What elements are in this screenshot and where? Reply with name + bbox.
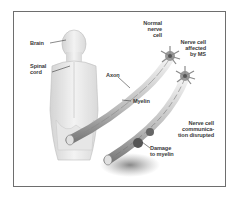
damage-leader xyxy=(142,142,150,148)
ms-illustration xyxy=(0,0,238,199)
label-axon: Axon xyxy=(106,72,120,78)
axon-leader xyxy=(118,77,130,88)
label-brain: Brain xyxy=(30,40,44,46)
label-affected-cell: Nerve cell affected by MS xyxy=(172,39,206,57)
label-damage-to-myelin: Damage to myelin xyxy=(150,145,174,157)
label-spinal-line2: cord xyxy=(30,69,46,75)
label-spinal-cord: Spinal cord xyxy=(30,63,46,75)
label-normal-nerve-cell: Normal nerve cell xyxy=(134,20,162,38)
label-communication-disrupted: Nerve cell communica- tion disrupted xyxy=(170,120,214,138)
label-affected-line3: by MS xyxy=(172,51,206,57)
label-damage-line2: to myelin xyxy=(150,151,174,157)
label-disrupted-line3: tion disrupted xyxy=(170,132,214,138)
label-myelin: Myelin xyxy=(133,98,150,104)
label-normal-line3: cell xyxy=(134,32,162,38)
